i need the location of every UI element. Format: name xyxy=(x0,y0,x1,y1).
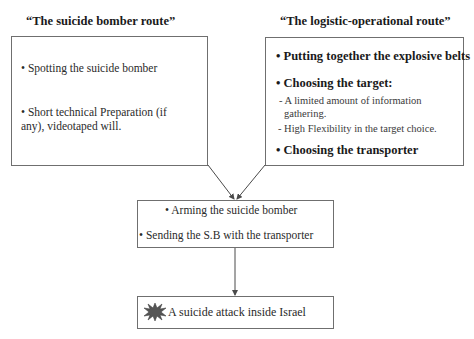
arrow-right-to-merge xyxy=(237,165,265,199)
outcome-label: A suicide attack inside Israel xyxy=(168,306,306,319)
merge-item-sending: • Sending the S.B with the transporter xyxy=(139,229,313,242)
arrow-left-to-merge xyxy=(208,165,234,199)
explosion-icon xyxy=(143,302,167,322)
merge-item-arming: • Arming the suicide bomber xyxy=(165,204,297,217)
flow-arrows xyxy=(0,0,474,339)
